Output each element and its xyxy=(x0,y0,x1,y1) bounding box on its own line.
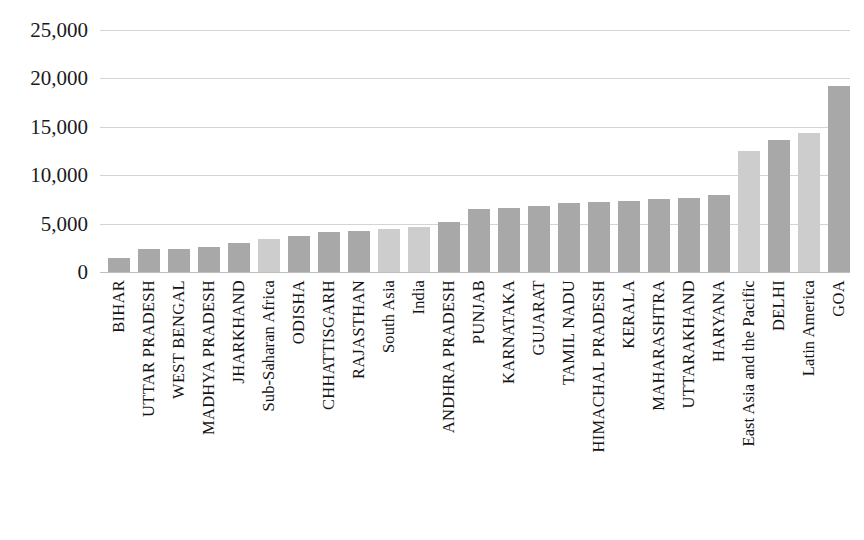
bar xyxy=(588,202,610,272)
x-axis-tick: WEST BENGAL xyxy=(164,276,194,526)
bar xyxy=(198,247,220,272)
x-axis-tick-label: KERALA xyxy=(621,280,638,349)
bar xyxy=(258,239,280,272)
bar xyxy=(768,140,790,272)
x-axis-tick-label: PUNJAB xyxy=(471,280,488,344)
x-axis-tick: Sub-Saharan Africa xyxy=(254,276,284,526)
bar xyxy=(408,227,430,272)
plot-area xyxy=(100,30,850,272)
x-axis-tick: KERALA xyxy=(614,276,644,526)
x-axis-tick-label: GOA xyxy=(831,280,848,317)
x-axis-tick-label: WEST BENGAL xyxy=(171,280,188,399)
bar xyxy=(708,195,730,272)
gridline xyxy=(100,272,850,273)
bar xyxy=(738,151,760,272)
x-axis-tick-label: HARYANA xyxy=(711,280,728,362)
x-axis-tick: DELHI xyxy=(764,276,794,526)
x-axis-tick-label: Latin America xyxy=(801,280,818,376)
bar xyxy=(108,258,130,272)
x-axis-tick-label: KARNATAKA xyxy=(501,280,518,384)
x-axis-tick: MAHARASHTRA xyxy=(644,276,674,526)
bar xyxy=(798,133,820,272)
bar xyxy=(438,222,460,272)
bar xyxy=(498,208,520,272)
x-axis-tick: ANDHRA PRADESH xyxy=(434,276,464,526)
x-axis-tick: South Asia xyxy=(374,276,404,526)
bar xyxy=(348,231,370,272)
bar-chart: 05,00010,00015,00020,00025,000 BIHARUTTA… xyxy=(0,0,864,540)
x-axis-tick: India xyxy=(404,276,434,526)
x-axis-tick-label: GUJARAT xyxy=(531,280,548,355)
bar xyxy=(468,209,490,272)
bar xyxy=(138,249,160,272)
x-axis-tick-label: JHARKHAND xyxy=(231,280,248,384)
x-axis-tick: GUJARAT xyxy=(524,276,554,526)
x-axis-tick-label: CHHATTISGARH xyxy=(321,280,338,410)
x-axis-tick: BIHAR xyxy=(104,276,134,526)
bar xyxy=(528,206,550,272)
bar xyxy=(228,243,250,272)
x-axis-tick-label: East Asia and the Pacific xyxy=(741,280,758,447)
bar-series xyxy=(100,30,850,272)
x-axis-tick-label: India xyxy=(411,280,428,314)
bar xyxy=(648,199,670,272)
x-axis-tick-label: ANDHRA PRADESH xyxy=(441,280,458,433)
x-axis-tick: UTTAR PRADESH xyxy=(134,276,164,526)
x-axis-tick: ODISHA xyxy=(284,276,314,526)
x-axis-tick-label: MAHARASHTRA xyxy=(651,280,668,411)
x-axis-tick-label: ODISHA xyxy=(291,280,308,344)
x-axis-tick-label: UTTARAKHAND xyxy=(681,280,698,408)
x-axis-tick-label: MADHYA PRADESH xyxy=(201,280,218,435)
x-axis-tick: Latin America xyxy=(794,276,824,526)
x-axis-tick-label: South Asia xyxy=(381,280,398,353)
x-axis-tick-label: DELHI xyxy=(771,280,788,331)
x-axis-tick-label: BIHAR xyxy=(111,280,128,333)
x-axis-tick-label: TAMIL NADU xyxy=(561,280,578,385)
x-axis-tick: KARNATAKA xyxy=(494,276,524,526)
x-axis-tick: MADHYA PRADESH xyxy=(194,276,224,526)
x-axis-tick: HARYANA xyxy=(704,276,734,526)
x-axis-tick: RAJASTHAN xyxy=(344,276,374,526)
x-axis-tick-label: UTTAR PRADESH xyxy=(141,280,158,417)
bar xyxy=(318,232,340,272)
x-axis-tick: East Asia and the Pacific xyxy=(734,276,764,526)
x-axis-tick: CHHATTISGARH xyxy=(314,276,344,526)
bar xyxy=(678,198,700,272)
x-axis-tick: UTTARAKHAND xyxy=(674,276,704,526)
x-axis-tick: HIMACHAL PRADESH xyxy=(584,276,614,526)
x-axis-tick: TAMIL NADU xyxy=(554,276,584,526)
x-axis-tick-label: HIMACHAL PRADESH xyxy=(591,280,608,452)
bar xyxy=(618,201,640,272)
bar xyxy=(828,86,850,272)
bar xyxy=(558,203,580,272)
x-axis-tick-label: Sub-Saharan Africa xyxy=(261,280,278,411)
x-axis-tick: PUNJAB xyxy=(464,276,494,526)
bar xyxy=(378,229,400,272)
bar xyxy=(288,236,310,272)
x-axis-tick-label: RAJASTHAN xyxy=(351,280,368,379)
bar xyxy=(168,249,190,272)
x-axis-tick: JHARKHAND xyxy=(224,276,254,526)
x-axis-tick: GOA xyxy=(824,276,854,526)
x-axis-labels: BIHARUTTAR PRADESHWEST BENGALMADHYA PRAD… xyxy=(100,276,850,536)
